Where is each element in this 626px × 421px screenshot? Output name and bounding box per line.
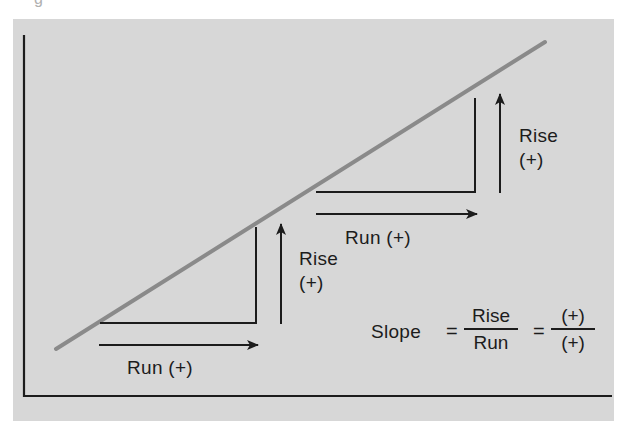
upper-rise-label: Rise — [519, 126, 558, 145]
lower-rise-label: Rise — [299, 249, 338, 268]
formula-slope-label: Slope — [371, 322, 421, 341]
upper-run-label: Run (+) — [345, 228, 411, 247]
fraction-denominator-plus: (+) — [561, 333, 585, 352]
lower-rise-sign: (+) — [299, 273, 324, 292]
formula-equals-2: = — [533, 321, 545, 341]
upper-rise-sign: (+) — [519, 150, 544, 169]
upper-triangle-legs — [316, 98, 475, 192]
fraction-numerator-rise: Rise — [472, 306, 510, 325]
formula-sign-fraction: (+) (+) — [551, 306, 595, 352]
formula-equals-1: = — [446, 321, 458, 341]
sloped-line — [56, 42, 545, 349]
fraction-denominator-run: Run — [474, 333, 509, 352]
slope-diagram — [0, 0, 626, 421]
fraction-numerator-plus: (+) — [561, 306, 585, 325]
fraction-bar — [551, 328, 595, 330]
lower-run-label: Run (+) — [127, 358, 193, 377]
formula-rise-over-run: Rise Run — [464, 306, 518, 352]
fraction-bar — [464, 328, 518, 330]
